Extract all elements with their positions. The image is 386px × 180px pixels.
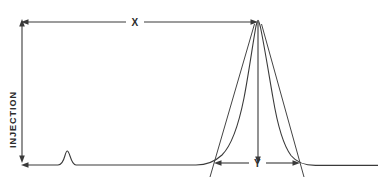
right-tangent-line [262, 24, 305, 177]
y-measure-annotation: Y [214, 158, 300, 169]
injection-axis [19, 19, 25, 163]
y-axis-label: INJECTION [8, 91, 18, 148]
apex-drop-line-group [255, 22, 261, 164]
left-tangent-line [210, 24, 255, 177]
y-measure-label: Y [254, 158, 261, 169]
chromatogram-figure: INJECTION X Y [0, 0, 386, 180]
detector-signal-trace [26, 20, 378, 165]
x-measure-label: X [131, 17, 138, 28]
y-measure-arrowhead-right [293, 160, 301, 166]
injection-axis-arrowhead-down [19, 156, 25, 164]
x-measure-annotation: X [21, 17, 258, 28]
chromatogram-diagram: INJECTION X Y [0, 0, 386, 180]
